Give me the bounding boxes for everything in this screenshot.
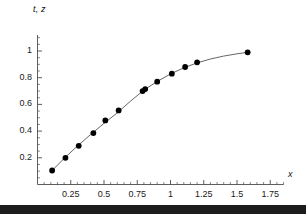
fitted-curve: [52, 52, 248, 170]
x-tick-label: 1: [154, 189, 188, 199]
data-point-marker: [169, 71, 175, 77]
data-point-marker: [182, 64, 188, 70]
data-point-marker: [142, 86, 148, 92]
y-tick-label: 0.8: [6, 72, 32, 82]
y-tick-label: 0.4: [6, 125, 32, 135]
data-point-marker: [76, 143, 82, 149]
fitted-curve-path: [52, 52, 248, 170]
data-point-marker: [154, 79, 160, 85]
data-point-marker: [63, 155, 69, 161]
data-point-marker: [245, 49, 251, 55]
chart-figure: t, z x 0.20.40.60.81 0.250.50.7511.251.5…: [0, 0, 306, 214]
x-tick-label: 1.25: [187, 189, 221, 199]
data-point-marker: [116, 108, 122, 114]
y-tick-label: 0.2: [6, 152, 32, 162]
x-tick-label: 0.5: [87, 189, 121, 199]
data-points: [49, 49, 250, 173]
bottom-bar: [0, 205, 306, 214]
x-tick-label: 0.75: [120, 189, 154, 199]
data-point-marker: [102, 118, 108, 124]
data-point-marker: [49, 168, 55, 174]
data-point-marker: [194, 59, 200, 65]
y-tick-label: 1: [6, 45, 32, 55]
y-axis-label: t, z: [33, 4, 46, 14]
plot-canvas: [0, 0, 306, 214]
x-tick-label: 1.5: [220, 189, 254, 199]
x-tick-label: 0.25: [54, 189, 88, 199]
x-tick-label: 1.75: [253, 189, 287, 199]
data-point-marker: [90, 130, 96, 136]
y-tick-label: 0.6: [6, 98, 32, 108]
x-axis-label: x: [288, 169, 293, 179]
axes-group: [38, 35, 284, 185]
